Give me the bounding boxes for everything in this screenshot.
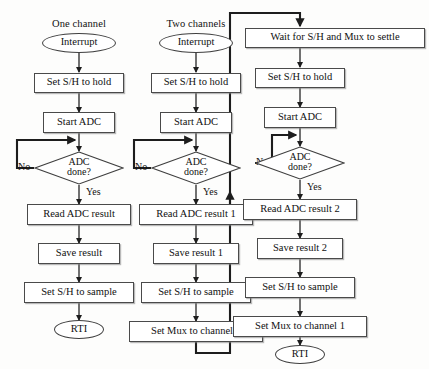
node-c3-adc-done: ADC done?	[255, 146, 345, 180]
node-c2-set-sh-hold: Set S/H to hold	[151, 73, 241, 93]
node-c1-save-result: Save result	[38, 243, 120, 264]
node-c1-set-sh-sample: Set S/H to sample	[24, 282, 134, 303]
flowchart-canvas: One channel Two channels Interrupt Set S…	[0, 0, 429, 369]
column-title-two-channels: Two channels	[151, 18, 241, 29]
node-c1-adc-done: ADC done?	[34, 151, 124, 185]
node-c2-read-adc-result-1: Read ADC result 1	[139, 204, 253, 225]
edge-label-c2-no: No	[135, 161, 147, 172]
node-c1-start-adc: Start ADC	[43, 112, 115, 133]
node-c3-start-adc: Start ADC	[264, 107, 336, 128]
node-c3-wait-settle: Wait for S/H and Mux to settle	[245, 28, 425, 48]
node-c3-set-sh-sample: Set S/H to sample	[245, 277, 355, 298]
edge-label-c2-yes: Yes	[203, 186, 218, 197]
edge-label-c3-yes: Yes	[307, 181, 322, 192]
edge-label-c1-no: No	[18, 161, 30, 172]
node-c2-save-result-1: Save result 1	[153, 243, 239, 264]
node-c2-set-sh-sample: Set S/H to sample	[141, 282, 251, 303]
node-c1-interrupt: Interrupt	[42, 33, 116, 53]
node-c1-read-adc-result: Read ADC result	[27, 204, 131, 225]
node-c2-adc-done: ADC done?	[151, 151, 241, 185]
node-c3-set-sh-hold: Set S/H to hold	[255, 68, 345, 88]
node-c3-adc-done-line2: done?	[288, 162, 312, 172]
node-c1-adc-done-line2: done?	[67, 167, 91, 177]
node-c1-rti: RTI	[54, 320, 104, 339]
node-c2-interrupt: Interrupt	[159, 33, 233, 53]
node-c3-read-adc-result-2: Read ADC result 2	[243, 199, 357, 220]
node-c2-adc-done-line2: done?	[184, 167, 208, 177]
node-c3-rti: RTI	[275, 345, 325, 364]
node-c3-set-mux-channel-1: Set Mux to channel 1	[233, 316, 367, 337]
node-c3-save-result-2: Save result 2	[257, 238, 343, 259]
node-c2-start-adc: Start ADC	[160, 112, 232, 133]
edge-label-c1-yes: Yes	[86, 186, 101, 197]
node-c1-set-sh-hold: Set S/H to hold	[34, 73, 124, 93]
column-title-one-channel: One channel	[34, 18, 124, 29]
